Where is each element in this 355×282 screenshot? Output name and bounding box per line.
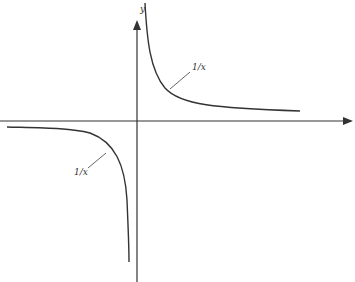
upper-branch-curve bbox=[145, 3, 300, 111]
lower-branch-curve bbox=[7, 127, 129, 262]
upper-label-leader bbox=[170, 72, 190, 89]
x-axis-arrowhead-icon bbox=[343, 117, 353, 125]
hyperbola-diagram: y 1/x 1/x bbox=[0, 0, 355, 282]
lower-label-leader bbox=[88, 153, 106, 168]
plot-canvas bbox=[0, 0, 355, 282]
upper-curve-label: 1/x bbox=[192, 63, 206, 72]
y-axis-arrowhead-icon bbox=[133, 20, 141, 30]
lower-curve-label: 1/x bbox=[74, 168, 88, 177]
y-axis-label: y bbox=[140, 5, 145, 14]
